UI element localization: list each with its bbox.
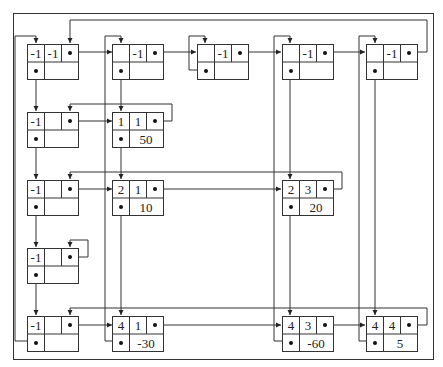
col-index: 1 bbox=[135, 114, 142, 129]
header-node-c4: -1 bbox=[367, 45, 418, 80]
row-index: 2 bbox=[288, 182, 295, 197]
down-pointer-dot bbox=[373, 341, 377, 345]
header-node-r2: -1 bbox=[28, 181, 79, 216]
col-index: 3 bbox=[305, 318, 312, 333]
node-value: 50 bbox=[140, 132, 153, 147]
header-node-r4: -1 bbox=[28, 317, 79, 352]
header-node-r1: -1 bbox=[28, 113, 79, 148]
right-pointer-dot bbox=[153, 119, 157, 123]
right-pointer-dot bbox=[68, 187, 72, 191]
node-value: -60 bbox=[307, 336, 324, 351]
right-pointer-dot bbox=[407, 51, 411, 55]
row-index: -1 bbox=[31, 318, 42, 333]
down-pointer-dot bbox=[289, 341, 293, 345]
down-pointer-dot bbox=[289, 205, 293, 209]
right-pointer-dot bbox=[153, 187, 157, 191]
right-pointer-dot bbox=[407, 323, 411, 327]
col-index: -1 bbox=[218, 46, 229, 61]
down-pointer-dot bbox=[119, 205, 123, 209]
row-index: 2 bbox=[118, 182, 125, 197]
down-pointer-dot bbox=[119, 137, 123, 141]
down-pointer-dot bbox=[373, 69, 377, 73]
right-pointer-dot bbox=[323, 51, 327, 55]
right-pointer-dot bbox=[68, 51, 72, 55]
down-pointer-dot bbox=[119, 69, 123, 73]
header-node-c2: -1 bbox=[198, 45, 249, 80]
down-pointer-dot bbox=[204, 69, 208, 73]
col-index: 4 bbox=[389, 318, 396, 333]
right-pointer-dot bbox=[153, 51, 157, 55]
col-index: -1 bbox=[303, 46, 314, 61]
node-value: 5 bbox=[397, 336, 404, 351]
node-value: -30 bbox=[137, 336, 154, 351]
down-pointer-dot bbox=[34, 69, 38, 73]
row-index: -1 bbox=[31, 114, 42, 129]
row-index: 4 bbox=[288, 318, 295, 333]
element-node-2-3: 2 3 20 bbox=[283, 181, 334, 216]
header-node-c1: -1 bbox=[113, 45, 164, 80]
node-value: 10 bbox=[140, 200, 153, 215]
down-pointer-dot bbox=[34, 205, 38, 209]
col-index: 1 bbox=[135, 318, 142, 333]
down-pointer-dot bbox=[34, 137, 38, 141]
col-index: -1 bbox=[387, 46, 398, 61]
down-pointer-dot bbox=[119, 341, 123, 345]
down-pointer-dot bbox=[34, 273, 38, 277]
element-node-4-3: 4 3 -60 bbox=[283, 317, 334, 352]
col-index: -1 bbox=[48, 46, 59, 61]
header-node-c3: -1 bbox=[283, 45, 334, 80]
sparse-matrix-diagram: -1 -1 -1 -1 -1 -1 bbox=[0, 0, 443, 367]
down-pointer-dot bbox=[289, 69, 293, 73]
row-index: 1 bbox=[118, 114, 125, 129]
col-index: 3 bbox=[305, 182, 312, 197]
row-index: -1 bbox=[31, 182, 42, 197]
element-node-1-1: 1 1 50 bbox=[113, 113, 164, 148]
node-value: 20 bbox=[310, 200, 323, 215]
col-index: 1 bbox=[135, 182, 142, 197]
header-node-r3: -1 bbox=[28, 249, 79, 284]
right-pointer-dot bbox=[68, 323, 72, 327]
element-node-4-4: 4 4 5 bbox=[367, 317, 418, 352]
right-pointer-dot bbox=[238, 51, 242, 55]
right-pointer-dot bbox=[323, 187, 327, 191]
right-pointer-dot bbox=[323, 323, 327, 327]
row-index: 4 bbox=[372, 318, 379, 333]
row-index: -1 bbox=[31, 46, 42, 61]
right-pointer-dot bbox=[68, 255, 72, 259]
header-node-h0: -1 -1 bbox=[28, 45, 79, 80]
right-pointer-dot bbox=[68, 119, 72, 123]
element-node-4-1: 4 1 -30 bbox=[113, 317, 164, 352]
row-index: -1 bbox=[31, 250, 42, 265]
down-pointer-dot bbox=[34, 341, 38, 345]
row-index: 4 bbox=[118, 318, 125, 333]
right-pointer-dot bbox=[153, 323, 157, 327]
element-node-2-1: 2 1 10 bbox=[113, 181, 164, 216]
col-index: -1 bbox=[133, 46, 144, 61]
